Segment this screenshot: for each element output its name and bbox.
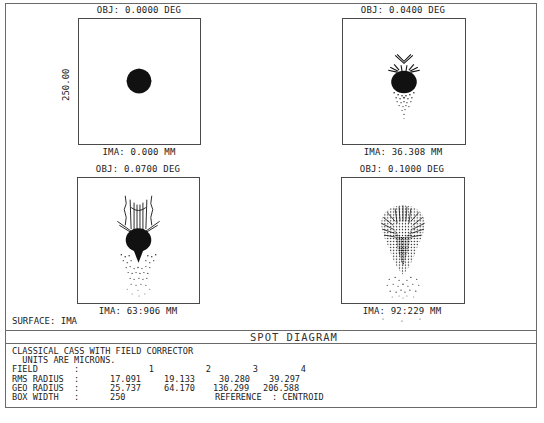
ima-label-field-1: IMA: 0.000 MM bbox=[102, 147, 175, 157]
ima-label-field-4: IMA: 92:229 MM bbox=[363, 306, 442, 316]
obj-label-field-3: OBJ: 0.0700 DEG bbox=[96, 164, 180, 174]
stray-spot-dots bbox=[370, 316, 440, 324]
box-width-value: 250 bbox=[110, 393, 126, 402]
spot-plot-field-1 bbox=[78, 18, 201, 145]
surface-label: SURFACE: IMA bbox=[12, 316, 77, 326]
spot-pattern-coma-medium bbox=[78, 178, 199, 303]
obj-label-field-1: OBJ: 0.0000 DEG bbox=[97, 5, 181, 15]
ima-label-field-3: IMA: 63:906 MM bbox=[99, 306, 178, 316]
divider-bottom bbox=[5, 343, 537, 344]
spot-plot-field-4 bbox=[341, 177, 465, 304]
obj-label-field-2: OBJ: 0.0400 DEG bbox=[361, 5, 445, 15]
box-width-row: BOX WIDTH : 250 REFERENCE : CENTROID bbox=[12, 393, 193, 402]
spot-plot-field-3 bbox=[77, 177, 200, 304]
spot-plot-field-2 bbox=[342, 18, 466, 145]
reference-label: REFERENCE : CENTROID bbox=[215, 393, 324, 402]
spot-pattern-round bbox=[79, 19, 200, 144]
scale-label: 250.00 bbox=[61, 68, 71, 101]
spot-pattern-coma-large bbox=[342, 178, 464, 303]
ima-label-field-2: IMA: 36.308 MM bbox=[364, 147, 443, 157]
box-width-label: BOX WIDTH : bbox=[12, 393, 79, 402]
info-block: CLASSICAL CASS WITH FIELD CORRECTOR UNIT… bbox=[12, 347, 193, 402]
diagram-title: SPOT DIAGRAM bbox=[250, 331, 338, 343]
spot-pattern-coma-small bbox=[343, 19, 465, 144]
obj-label-field-4: OBJ: 0.1000 DEG bbox=[360, 164, 444, 174]
geo-radius-2: 64.170 bbox=[164, 384, 195, 393]
